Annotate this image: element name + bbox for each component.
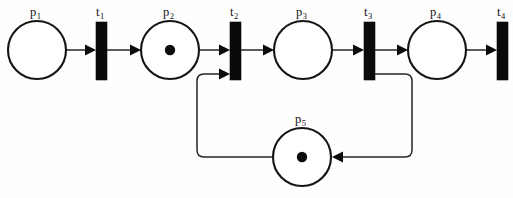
place-label-p1: p1 bbox=[30, 5, 41, 21]
label-subscript: 4 bbox=[501, 11, 506, 21]
transition-label-t1: t1 bbox=[96, 5, 104, 21]
arc-p5-to-t2 bbox=[197, 69, 272, 158]
place-p1[interactable] bbox=[8, 21, 66, 79]
label-subscript: 5 bbox=[302, 118, 306, 128]
arc-p2-to-t2 bbox=[200, 45, 230, 56]
place-label-p4: p4 bbox=[430, 5, 442, 21]
arc-p3-to-t3 bbox=[333, 45, 364, 56]
place-label-p5: p5 bbox=[295, 112, 306, 128]
place-p3[interactable] bbox=[274, 21, 332, 79]
transition-label-t3: t3 bbox=[364, 5, 372, 21]
token-dot bbox=[297, 152, 307, 162]
arrowhead-icon bbox=[332, 152, 343, 163]
label-base: p bbox=[430, 5, 436, 19]
label-subscript: 4 bbox=[437, 11, 442, 21]
place-label-p2: p2 bbox=[163, 5, 174, 21]
arrowhead-icon bbox=[353, 45, 364, 56]
arrowhead-icon bbox=[397, 45, 408, 56]
label-subscript: 3 bbox=[303, 11, 307, 21]
token-dot bbox=[165, 45, 175, 55]
transition-t2[interactable] bbox=[230, 22, 241, 80]
label-subscript: 1 bbox=[37, 11, 41, 21]
arc-t1-to-p2 bbox=[107, 45, 141, 56]
transition-label-t2: t2 bbox=[230, 5, 238, 21]
place-p4[interactable] bbox=[408, 21, 466, 79]
label-base: p bbox=[163, 5, 169, 19]
arrowhead-icon bbox=[130, 45, 141, 56]
place-circle[interactable] bbox=[408, 21, 466, 79]
arrowhead-icon bbox=[219, 45, 230, 56]
label-base: p bbox=[296, 5, 302, 19]
transition-label-t4: t4 bbox=[497, 5, 506, 21]
petri-net-diagram: p1p2p3p4p5t1t2t3t4 bbox=[0, 0, 513, 198]
arrowhead-icon bbox=[85, 45, 96, 56]
place-circle[interactable] bbox=[8, 21, 66, 79]
transition-t4[interactable] bbox=[497, 22, 508, 80]
arc-line bbox=[197, 74, 272, 157]
place-label-p3: p3 bbox=[296, 5, 307, 21]
label-subscript: 2 bbox=[170, 11, 174, 21]
arc-t3-to-p4 bbox=[375, 45, 408, 56]
place-circle[interactable] bbox=[274, 21, 332, 79]
arc-p4-to-t4 bbox=[467, 45, 497, 56]
arrowhead-icon bbox=[486, 45, 497, 56]
petri-net-canvas: p1p2p3p4p5t1t2t3t4 bbox=[0, 0, 513, 198]
arc-line bbox=[338, 74, 412, 157]
arc-t3-to-p5 bbox=[332, 74, 412, 163]
place-p2[interactable] bbox=[141, 21, 199, 79]
arrowhead-icon bbox=[219, 69, 230, 80]
label-subscript: 1 bbox=[100, 11, 104, 21]
place-p5[interactable] bbox=[273, 128, 331, 186]
arc-p1-to-t1 bbox=[67, 45, 96, 56]
label-subscript: 2 bbox=[234, 11, 238, 21]
label-subscript: 3 bbox=[368, 11, 372, 21]
arrowhead-icon bbox=[263, 45, 274, 56]
label-base: p bbox=[30, 5, 36, 19]
label-base: p bbox=[295, 112, 301, 126]
arc-t2-to-p3 bbox=[241, 45, 274, 56]
transition-t3[interactable] bbox=[364, 22, 375, 80]
transition-t1[interactable] bbox=[96, 22, 107, 80]
